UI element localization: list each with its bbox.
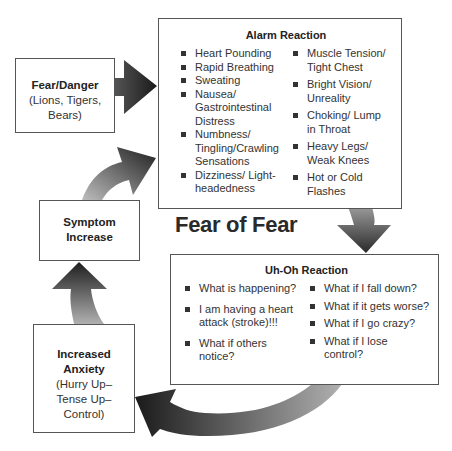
- arrow-alarm-to-uhoh: [337, 207, 391, 253]
- uh-oh-item: What if I fall down?: [308, 282, 430, 296]
- arrow-uhoh-to-anxiety: [135, 384, 342, 437]
- alarm-item: Sweating: [179, 74, 291, 88]
- increased-anxiety-line-1: (Hurry Up–: [34, 377, 134, 392]
- node-alarm-reaction: Alarm Reaction Heart Pounding Rapid Brea…: [158, 18, 402, 209]
- alarm-item: Choking/ Lump in Throat: [291, 109, 391, 136]
- increased-anxiety-line-2: Tense Up–: [34, 392, 134, 407]
- symptom-increase-title-1: Symptom: [40, 215, 139, 230]
- alarm-item: Hot or Cold Flashes: [291, 171, 369, 198]
- increased-anxiety-title-1: Increased: [34, 347, 134, 362]
- fear-danger-line-2: Bears): [16, 108, 114, 123]
- diagram-title: Fear of Fear: [175, 212, 297, 238]
- arrow-anxiety-to-symptom: [52, 262, 107, 324]
- arrow-fear-to-alarm: [114, 60, 157, 114]
- symptom-increase-title-2: Increase: [40, 230, 139, 245]
- uh-oh-item: What if I lose control?: [308, 335, 399, 362]
- uh-oh-right-list: What if I fall down? What if it gets wor…: [308, 282, 430, 364]
- uh-oh-item: What if others notice?: [183, 337, 279, 364]
- alarm-left-list: Heart Pounding Rapid Breathing Sweating …: [179, 47, 291, 198]
- arrow-symptom-to-alarm: [82, 147, 156, 200]
- uh-oh-item: What if I go crazy?: [308, 317, 430, 331]
- alarm-item: Bright Vision/ Unreality: [291, 78, 381, 105]
- node-uh-oh-reaction: Uh-Oh Reaction What is happening? I am h…: [170, 254, 439, 385]
- uh-oh-item: What is happening?: [183, 282, 308, 296]
- alarm-item: Numbness/ Tingling/Crawling Sensations: [179, 128, 291, 169]
- uh-oh-item: I am having a heart attack (stroke)!!!: [183, 303, 299, 330]
- increased-anxiety-title-2: Anxiety: [34, 362, 134, 377]
- alarm-item: Rapid Breathing: [179, 61, 291, 75]
- uh-oh-item: What if it gets worse?: [308, 300, 430, 314]
- uh-oh-reaction-title: Uh-Oh Reaction: [183, 264, 430, 276]
- node-symptom-increase: Symptom Increase: [39, 200, 140, 261]
- alarm-reaction-title: Alarm Reaction: [179, 29, 393, 41]
- node-fear-danger: Fear/Danger (Lions, Tigers, Bears): [15, 58, 115, 133]
- fear-danger-title: Fear/Danger: [16, 78, 114, 93]
- alarm-item: Nausea/ Gastrointestinal Distress: [179, 88, 283, 129]
- uh-oh-left-list: What is happening? I am having a heart a…: [183, 282, 308, 364]
- alarm-item: Heavy Legs/ Weak Knees: [291, 140, 379, 167]
- increased-anxiety-line-3: Control): [34, 407, 134, 422]
- node-increased-anxiety: Increased Anxiety (Hurry Up– Tense Up– C…: [33, 324, 135, 433]
- alarm-item: Heart Pounding: [179, 47, 291, 61]
- fear-danger-line-1: (Lions, Tigers,: [16, 93, 114, 108]
- alarm-item: Muscle Tension/ Tight Chest: [291, 47, 395, 74]
- alarm-item: Dizziness/ Light-headedness: [179, 169, 285, 196]
- alarm-right-list: Muscle Tension/ Tight Chest Bright Visio…: [291, 47, 395, 198]
